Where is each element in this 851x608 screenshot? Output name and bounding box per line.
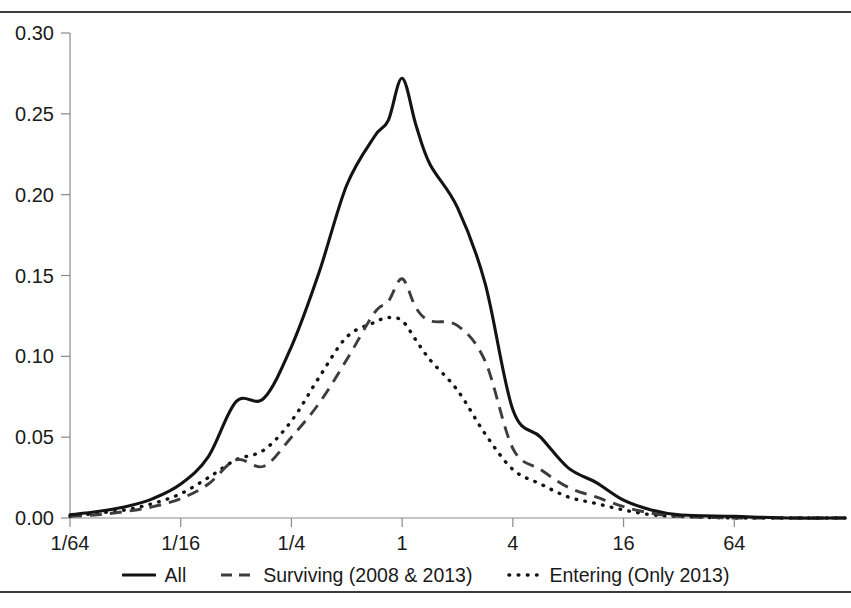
y-axis: 0.000.050.100.150.200.250.30 [15,22,70,529]
dashed-line-swatch [220,568,254,582]
x-tick-label: 4 [507,532,518,554]
x-axis: 1/641/161/4141664 [51,518,845,554]
x-tick-label: 1/16 [161,532,200,554]
data-series-group [70,78,845,518]
series-line-all [70,78,845,518]
x-tick-label: 1/4 [278,532,306,554]
x-tick-label: 1 [397,532,408,554]
x-tick-label: 1/64 [51,532,90,554]
series-line-surviving [70,279,845,518]
legend-item-all: All [122,564,187,587]
y-tick-label: 0.15 [15,265,54,287]
x-tick-group: 1/641/161/4141664 [51,518,746,554]
y-tick-label: 0.25 [15,103,54,125]
y-tick-group: 0.000.050.100.150.200.250.30 [15,22,70,529]
legend-label-surviving: Surviving (2008 & 2013) [263,564,472,587]
y-tick-label: 0.10 [15,345,54,367]
figure-container: 0.000.050.100.150.200.250.30 1/641/161/4… [0,0,851,608]
y-tick-label: 0.00 [15,507,54,529]
bottom-horizontal-rule [0,591,851,593]
solid-line-swatch [122,568,156,582]
x-tick-label: 16 [612,532,634,554]
series-line-entering [70,317,845,518]
y-tick-label: 0.20 [15,184,54,206]
legend-label-all: All [165,564,187,587]
chart-legend: All Surviving (2008 & 2013) Entering (On… [0,560,851,590]
y-tick-label: 0.30 [15,22,54,44]
legend-item-entering: Entering (Only 2013) [506,564,729,587]
x-tick-label: 64 [723,532,745,554]
legend-item-surviving: Surviving (2008 & 2013) [220,564,472,587]
dotted-line-swatch [506,568,540,582]
legend-label-entering: Entering (Only 2013) [549,564,729,587]
y-tick-label: 0.05 [15,426,54,448]
chart-plot-area: 0.000.050.100.150.200.250.30 1/641/161/4… [0,12,851,557]
